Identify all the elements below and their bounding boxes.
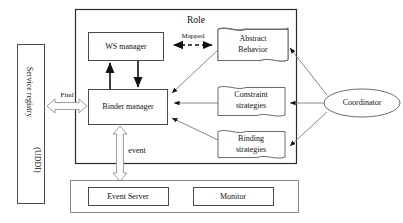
role-title: Role [187, 15, 205, 25]
find-arrow [47, 99, 87, 113]
service-registry-label-line2: (UDDI) [33, 147, 42, 173]
constraint-strategies-label-line2: strategies [236, 101, 266, 110]
diagram-canvas: Role Service registry (UDDI) Find WS man… [0, 0, 403, 223]
binding-strategies-label-line1: Binding [238, 134, 264, 143]
event-server-label: Event Server [107, 192, 149, 201]
mapped-label: Mapped [182, 32, 205, 40]
ws-manager-label: WS manager [105, 42, 147, 51]
binding-strategies-label-line2: strategies [236, 145, 266, 154]
find-label: Find [61, 91, 74, 99]
service-registry-label-line1: Service registry [25, 67, 34, 117]
abstract-behavior-label-line2: Behavior [238, 45, 268, 54]
architecture-diagram: Role Service registry (UDDI) Find WS man… [0, 0, 403, 223]
binder-manager-label: Binder manager [102, 102, 154, 111]
constraint-strategies-label-line1: Constraint [234, 90, 268, 99]
coordinator-label: Coordinator [343, 98, 382, 107]
abstract-behavior-label-line1: Abstract [239, 34, 267, 43]
event-label: event [128, 146, 146, 155]
monitor-label: Monitor [220, 192, 247, 201]
